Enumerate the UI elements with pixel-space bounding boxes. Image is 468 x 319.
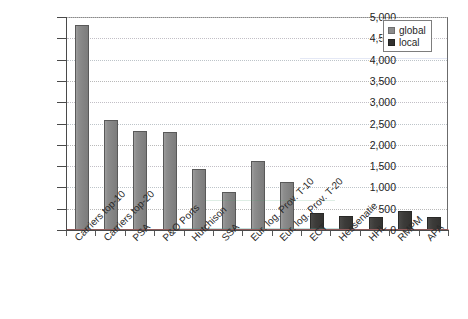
x-tick-mark [301,231,302,236]
x-tick-mark [330,231,331,236]
y-tick-label: 1,500 [370,161,396,172]
x-tick-mark [389,231,390,236]
y-axis-line [66,17,67,231]
y-tick-mark [57,209,66,210]
y-tick-label: 3,000 [370,97,396,108]
x-tick-mark [213,231,214,236]
x-tick-mark [66,231,67,236]
x-tick-mark [242,231,243,236]
y-tick-label: 1,000 [370,182,396,193]
legend-label-local: local [399,37,420,48]
legend-item-global: global [388,24,426,36]
x-tick-mark [154,231,155,236]
legend-label-global: global [399,25,426,36]
y-tick-mark [57,102,66,103]
bar-global [75,25,89,229]
y-tick-mark [57,187,66,188]
bar-chart: Millions of US$ 5,0004,5004,0003,5003,00… [0,0,468,319]
y-tick-label: 2,500 [370,119,396,130]
y-tick-mark [57,17,66,18]
x-tick-mark [95,231,96,236]
y-tick-mark [57,145,66,146]
y-tick-label: 2,000 [370,140,396,151]
y-tick-mark [57,230,66,231]
x-tick-mark [448,231,449,236]
legend-swatch-local-icon [388,39,395,46]
y-tick-mark [57,124,66,125]
x-tick-mark [360,231,361,236]
bar-global [163,132,177,229]
legend-item-local: local [388,36,426,48]
y-tick-mark [57,38,66,39]
x-tick-mark [272,231,273,236]
x-tick-mark [184,231,185,236]
y-tick-mark [57,166,66,167]
y-tick-label: 3,500 [370,76,396,87]
y-tick-label: 4,000 [370,55,396,66]
x-tick-mark [419,231,420,236]
x-tick-mark [125,231,126,236]
y-tick-label: 500 [378,204,396,215]
legend-swatch-global-icon [388,27,395,34]
legend: global local [383,20,432,52]
y-tick-mark [57,60,66,61]
y-tick-mark [57,81,66,82]
